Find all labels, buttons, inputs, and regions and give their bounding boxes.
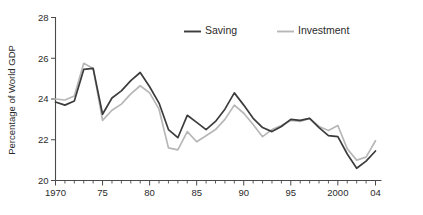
x-tick-label: 1970 (45, 187, 66, 198)
x-tick-label: 75 (97, 187, 108, 198)
y-tick-label: 20 (38, 175, 49, 186)
x-tick-label: 2000 (327, 187, 348, 198)
y-tick-label: 22 (38, 134, 49, 145)
x-tick-label: 80 (144, 187, 155, 198)
x-tick-label: 04 (370, 187, 381, 198)
y-axis: 2022242628 (38, 12, 56, 186)
y-tick-label: 28 (38, 12, 49, 23)
legend-label-investment: Investment (298, 24, 349, 36)
legend-label-saving: Saving (205, 24, 237, 36)
x-tick-label: 85 (191, 187, 202, 198)
line-chart: 2022242628 19707580859095200004 SavingIn… (0, 0, 423, 215)
x-axis: 19707580859095200004 (45, 181, 382, 198)
series-lines (56, 63, 376, 168)
x-tick-label: 95 (286, 187, 297, 198)
chart-figure: 2022242628 19707580859095200004 SavingIn… (0, 0, 423, 215)
chart-legend: SavingInvestment (184, 24, 349, 36)
y-tick-label: 26 (38, 53, 49, 64)
x-tick-label: 90 (238, 187, 249, 198)
y-tick-label: 24 (38, 93, 49, 104)
y-axis-title: Percentage of World GDP (6, 45, 17, 155)
